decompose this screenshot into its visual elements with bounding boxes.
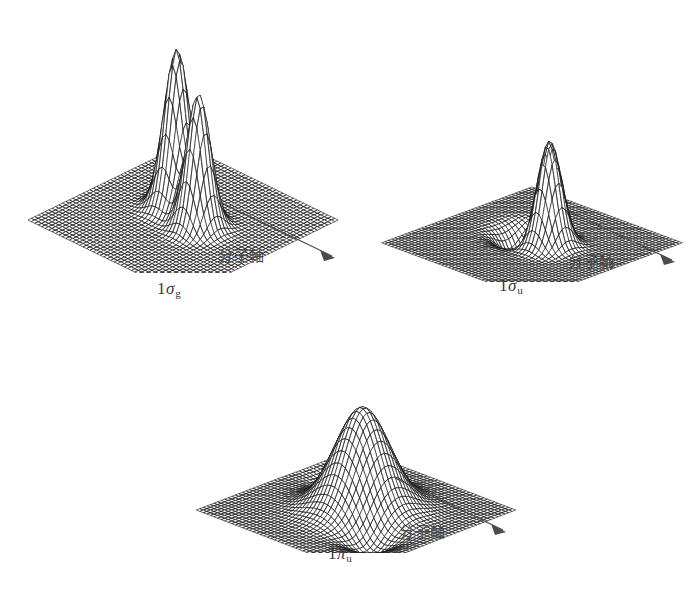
axis-annotation-pi-u: 分子軸 bbox=[389, 472, 524, 552]
orbital-label-subscript: u bbox=[346, 552, 352, 564]
molecular-orbital-figure: 分子軸 1σg 分子軸 1σu 分子軸 1 bbox=[0, 0, 700, 598]
orbital-label-symbol: σ bbox=[166, 279, 175, 298]
orbital-label-symbol: σ bbox=[508, 276, 517, 295]
orbital-label-sigma-u: 1σu bbox=[499, 276, 523, 296]
orbital-panel-sigma-u: 分子軸 1σu bbox=[372, 86, 692, 316]
axis-annotation-sigma-u: 分子軸 bbox=[560, 204, 690, 280]
molecular-axis-label: 分子軸 bbox=[568, 250, 615, 271]
orbital-label-subscript: u bbox=[517, 284, 523, 296]
orbital-label-subscript: g bbox=[175, 287, 181, 299]
orbital-label-sigma-g: 1σg bbox=[157, 279, 181, 299]
orbital-panel-pi-u: 分子軸 1πu bbox=[186, 338, 526, 588]
molecular-axis-label: 分子軸 bbox=[399, 520, 446, 541]
orbital-label-symbol: π bbox=[337, 544, 346, 563]
orbital-label-number: 1 bbox=[157, 279, 166, 298]
axis-annotation-sigma-g: 分子軸 bbox=[214, 196, 354, 276]
orbital-panel-sigma-g: 分子軸 1σg bbox=[18, 8, 348, 313]
molecular-axis-label: 分子軸 bbox=[218, 244, 265, 265]
orbital-label-number: 1 bbox=[328, 544, 337, 563]
orbital-label-pi-u: 1πu bbox=[328, 544, 352, 564]
orbital-label-number: 1 bbox=[499, 276, 508, 295]
